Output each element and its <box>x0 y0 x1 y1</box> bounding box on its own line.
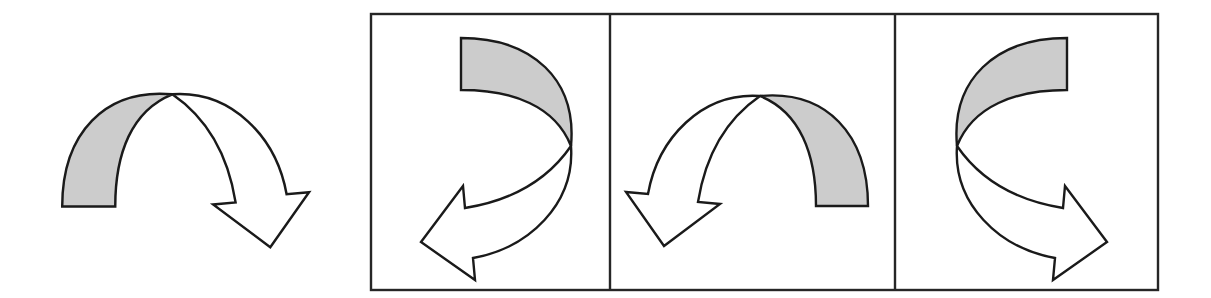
reference-figure <box>62 94 309 248</box>
option-b[interactable] <box>612 16 893 288</box>
puzzle-root <box>0 0 1211 298</box>
option-a[interactable] <box>373 16 608 288</box>
reference-arrow-head-band <box>172 94 309 247</box>
option-c[interactable] <box>897 16 1156 288</box>
puzzle-canvas <box>0 0 1211 298</box>
reference-shaded-band <box>62 94 172 207</box>
